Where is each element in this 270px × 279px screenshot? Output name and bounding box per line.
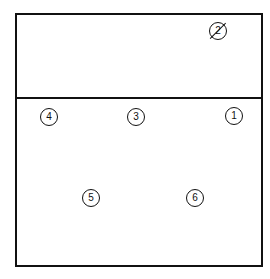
player-marker-6: 6	[186, 189, 204, 207]
player-marker-1: 1	[225, 107, 243, 125]
player-marker-2: 2	[209, 22, 227, 40]
player-number: 3	[133, 112, 139, 122]
court-divider-line	[15, 97, 263, 99]
player-marker-5: 5	[82, 189, 100, 207]
player-number: 5	[88, 193, 94, 203]
player-marker-4: 4	[40, 108, 58, 126]
player-number: 4	[46, 112, 52, 122]
court-boundary	[15, 13, 263, 267]
player-number: 2	[215, 26, 221, 36]
player-number: 1	[231, 111, 237, 121]
player-number: 6	[192, 193, 198, 203]
player-marker-3: 3	[127, 108, 145, 126]
